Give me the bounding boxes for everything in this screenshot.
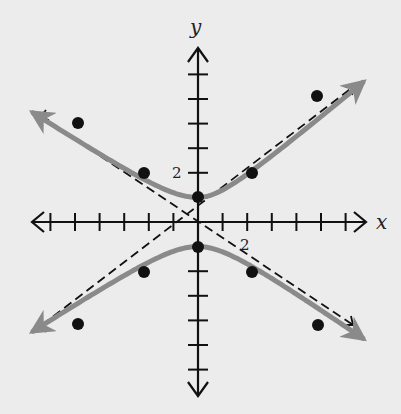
hyperbola-graph: y x 2 2 bbox=[0, 0, 401, 414]
x-axis-label: x bbox=[376, 210, 387, 234]
y-tick-label-2: 2 bbox=[172, 164, 182, 182]
y-axis-label: y bbox=[189, 15, 202, 39]
x-tick-label-2: 2 bbox=[240, 236, 250, 254]
